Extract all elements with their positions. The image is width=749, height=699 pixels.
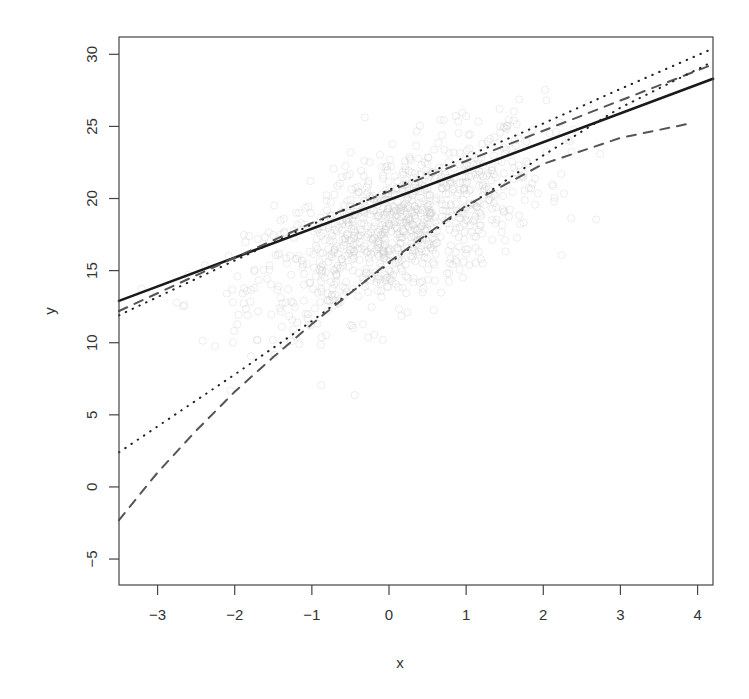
scatter-point — [223, 290, 230, 297]
scatter-points — [138, 86, 632, 398]
scatter-point — [443, 270, 450, 277]
scatter-point — [597, 150, 604, 157]
scatter-point — [558, 252, 565, 259]
scatter-point — [445, 247, 452, 254]
scatter-point — [351, 392, 358, 399]
scatter-point — [464, 246, 471, 253]
scatter-point — [355, 269, 362, 276]
scatter-point — [368, 304, 375, 311]
scatter-point — [361, 114, 368, 121]
scatter-point — [234, 321, 241, 328]
scatter-point — [489, 236, 496, 243]
scatter-point — [403, 290, 410, 297]
scatter-point — [361, 157, 368, 164]
scatter-point — [392, 173, 399, 180]
scatter-point — [541, 86, 548, 93]
scatter-point — [229, 299, 236, 306]
scatter-point — [490, 152, 497, 159]
scatter-point — [493, 204, 500, 211]
scatter-point — [534, 190, 541, 197]
scatter-point — [244, 312, 251, 319]
scatter-point — [366, 159, 373, 166]
scatter-point — [438, 289, 445, 296]
plot-frame — [119, 37, 713, 585]
scatter-point — [254, 336, 261, 343]
series-line-0 — [119, 79, 713, 301]
scatter-point — [330, 165, 337, 172]
scatter-point — [521, 187, 528, 194]
scatter-point — [371, 331, 378, 338]
scatter-point — [360, 321, 367, 328]
scatter-point — [255, 308, 262, 315]
scatter-point — [211, 343, 218, 350]
x-tick-label: 2 — [539, 606, 547, 623]
scatter-point — [343, 172, 350, 179]
scatter-point — [489, 205, 496, 212]
scatter-point — [399, 268, 406, 275]
scatter-point — [318, 382, 325, 389]
y-axis-title: y — [41, 307, 58, 315]
scatter-point — [317, 341, 324, 348]
scatter-point — [400, 171, 407, 178]
scatter-point — [488, 177, 495, 184]
scatter-point — [408, 233, 415, 240]
scatter-point — [431, 277, 438, 284]
scatter-point — [413, 142, 420, 149]
scatter-point — [505, 213, 512, 220]
scatter-point — [304, 315, 311, 322]
scatter-point — [247, 298, 254, 305]
scatter-point — [433, 195, 440, 202]
scatter-point — [456, 243, 463, 250]
x-tick-label: 4 — [693, 606, 701, 623]
scatter-point — [318, 334, 325, 341]
scatter-point — [231, 327, 238, 334]
scatter-point — [229, 286, 236, 293]
scatter-point — [468, 229, 475, 236]
scatter-point — [460, 196, 467, 203]
scatter-point — [269, 337, 276, 344]
scatter-point — [395, 305, 402, 312]
scatter-point — [403, 273, 410, 280]
y-axis: −5051015202530 — [83, 46, 119, 568]
y-tick-label: −5 — [83, 550, 100, 567]
scatter-point — [300, 297, 307, 304]
scatter-point — [510, 108, 517, 115]
scatter-point — [521, 197, 528, 204]
scatter-point — [410, 275, 417, 282]
scatter-point — [472, 259, 479, 266]
x-tick-label: −1 — [303, 606, 320, 623]
scatter-point — [389, 240, 396, 247]
scatter-point — [451, 230, 458, 237]
x-axis: −3−2−101234 — [149, 585, 702, 623]
scatter-point — [459, 274, 466, 281]
scatter-point — [404, 309, 411, 316]
scatter-point — [338, 174, 345, 181]
scatter-point — [385, 178, 392, 185]
scatter-point — [365, 334, 372, 341]
scatter-point — [283, 260, 290, 267]
scatter-point — [546, 130, 553, 137]
scatter-point — [364, 289, 371, 296]
scatter-point — [254, 235, 261, 242]
scatter-point — [516, 96, 523, 103]
scatter-point — [523, 158, 530, 165]
scatter-point — [310, 251, 317, 258]
scatter-point — [389, 141, 396, 148]
scatter-point — [566, 138, 573, 145]
scatter-point — [479, 260, 486, 267]
scatter-point — [323, 192, 330, 199]
scatter-point — [307, 210, 314, 217]
scatter-point — [395, 283, 402, 290]
scatter-point — [425, 154, 432, 161]
scatter-point — [291, 304, 298, 311]
y-tick-label: 20 — [83, 190, 100, 207]
scatter-point — [366, 259, 373, 266]
scatter-point — [452, 249, 459, 256]
scatter-point — [264, 275, 271, 282]
scatter-point — [229, 339, 236, 346]
scatter-point — [346, 237, 353, 244]
y-tick-label: 0 — [83, 483, 100, 491]
scatter-point — [461, 228, 468, 235]
scatter-point — [242, 239, 249, 246]
scatter-point — [553, 128, 560, 135]
